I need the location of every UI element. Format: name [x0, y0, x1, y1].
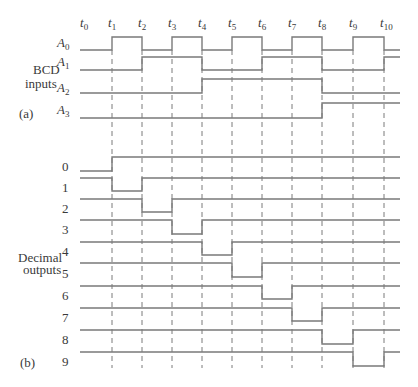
waveform-output-1	[80, 178, 400, 191]
waveform-output-9	[80, 352, 400, 366]
time-label-t1: t1	[108, 15, 116, 32]
waveform-a2	[80, 79, 400, 93]
inputs-group-label: inputs	[25, 76, 57, 91]
output-label-7: 7	[62, 310, 69, 325]
waveform-a3	[80, 103, 400, 118]
output-label-0: 0	[62, 159, 69, 174]
time-label-t9: t9	[349, 15, 358, 32]
waveform-output-2	[80, 199, 400, 212]
time-label-t4: t4	[198, 15, 207, 32]
time-label-t10: t10	[380, 15, 393, 32]
decimal-output-waveforms: 0123456789	[62, 157, 400, 369]
bcd-group-label: BCD	[33, 62, 60, 77]
time-label-t6: t6	[258, 15, 267, 32]
waveform-a0	[80, 37, 400, 50]
waveform-output-0	[80, 157, 400, 171]
waveform-output-5	[80, 263, 400, 277]
input-label-a2: A2	[56, 80, 69, 97]
time-label-t2: t2	[138, 15, 146, 32]
output-label-9: 9	[62, 354, 69, 369]
time-labels: t0t1t2t3t4t5t6t7t8t9t10	[80, 15, 393, 32]
input-label-a3: A3	[56, 102, 70, 119]
output-label-5: 5	[62, 266, 69, 281]
waveform-output-6	[80, 286, 400, 299]
outputs-group-label: outputs	[23, 262, 61, 277]
bcd-input-waveforms: A0A1A2A3	[56, 35, 400, 119]
bcd-decoder-timing-diagram: t0t1t2t3t4t5t6t7t8t9t10 A0A1A2A3 0123456…	[0, 0, 418, 387]
time-label-t3: t3	[168, 15, 177, 32]
waveform-output-4	[80, 242, 400, 255]
time-gridlines	[112, 50, 384, 368]
waveform-output-8	[80, 330, 400, 344]
waveform-output-3	[80, 220, 400, 234]
waveform-a1	[80, 57, 400, 70]
input-label-a0: A0	[56, 35, 70, 52]
output-label-8: 8	[62, 332, 69, 347]
output-label-6: 6	[62, 288, 69, 303]
time-label-t0: t0	[80, 15, 89, 32]
part-a-label: (a)	[19, 106, 33, 121]
time-label-t7: t7	[288, 15, 297, 32]
part-b-label: (b)	[20, 355, 35, 370]
output-label-1: 1	[62, 180, 69, 195]
waveform-output-7	[80, 308, 400, 321]
output-label-3: 3	[62, 222, 69, 237]
output-label-4: 4	[62, 244, 69, 259]
time-label-t5: t5	[228, 15, 237, 32]
output-label-2: 2	[62, 201, 69, 216]
time-label-t8: t8	[318, 15, 327, 32]
